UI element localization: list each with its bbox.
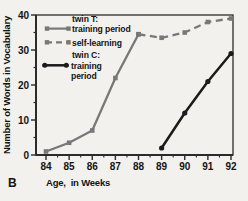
y-tick-label: 30: [18, 45, 30, 56]
legend-twin-c-label-line3: period: [71, 71, 97, 81]
series-line-self-learning: [139, 19, 232, 38]
series-marker-twin-c-training-period: [228, 51, 233, 56]
legend-twin-c-label-line1: twin C:: [72, 50, 100, 60]
legend-twin-c-swatch-marker-right: [64, 63, 69, 68]
legend-twin-c-label-line2: training: [71, 61, 102, 71]
y-axis-title: Number of Words in Vocabulary: [1, 15, 12, 154]
x-axis-title: Age, in Weeks: [46, 177, 110, 188]
x-tick-label: 91: [202, 161, 214, 172]
legend-self-learning-swatch-marker-right: [66, 40, 70, 44]
series-marker-twin-c-training-period: [159, 145, 164, 150]
series-marker-twin-c-training-period: [182, 110, 187, 115]
plot-frame: [36, 15, 233, 155]
legend: twin T: training period self-learning tw…: [42, 14, 130, 81]
x-tick-label: 86: [87, 161, 99, 172]
x-tick-label: 85: [64, 161, 76, 172]
series-marker-self-learning: [206, 20, 211, 25]
legend-twin-t-swatch-marker-left: [45, 26, 49, 30]
chart-canvas: 010203040848586878889909192 Number of Wo…: [0, 0, 248, 201]
series-marker-twin-t-training-period: [113, 76, 118, 81]
legend-twin-c-swatch-marker-left: [42, 63, 47, 68]
y-tick-label: 40: [18, 10, 30, 21]
x-tick-label: 92: [225, 161, 237, 172]
x-tick-label: 89: [156, 161, 168, 172]
legend-twin-t-label-line2: training period: [72, 24, 131, 34]
legend-self-learning-label: self-learning: [72, 38, 122, 48]
series-marker-twin-t-training-period: [44, 149, 49, 154]
x-tick-label: 88: [133, 161, 145, 172]
y-tick-label: 20: [18, 80, 30, 91]
series-marker-self-learning: [229, 16, 234, 21]
legend-twin-t-label-line1: twin T:: [72, 14, 98, 24]
x-tick-label: 87: [110, 161, 122, 172]
legend-twin-t-swatch-marker-right: [66, 26, 70, 30]
series-marker-self-learning: [136, 32, 141, 37]
series-marker-twin-t-training-period: [90, 128, 95, 133]
x-tick-label: 84: [40, 161, 52, 172]
y-tick-label: 0: [23, 150, 29, 161]
vocabulary-growth-chart: 010203040848586878889909192 Number of Wo…: [0, 0, 248, 201]
x-tick-label: 90: [179, 161, 191, 172]
series-marker-twin-c-training-period: [205, 79, 210, 84]
y-tick-label: 10: [18, 115, 30, 126]
panel-label: B: [8, 176, 17, 190]
legend-self-learning-swatch-marker-left: [45, 40, 49, 44]
series-line-twin-c-training-period: [162, 54, 231, 149]
series-marker-twin-t-training-period: [67, 140, 72, 145]
series-marker-self-learning: [182, 30, 187, 35]
series-marker-self-learning: [159, 35, 164, 40]
